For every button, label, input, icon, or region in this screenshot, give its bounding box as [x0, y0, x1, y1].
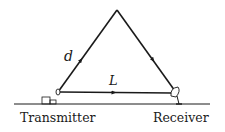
receiver-label: Receiver	[153, 110, 209, 125]
transmitter-building-icon	[42, 97, 56, 104]
reflected-path-label: d	[64, 48, 73, 64]
signal-path-diagram: d L Transmitter Receiver	[0, 0, 225, 132]
direct-path	[60, 92, 172, 93]
transmitter-label: Transmitter	[20, 110, 96, 125]
transmitter-antenna-icon	[56, 89, 60, 95]
reflected-path-down	[117, 10, 175, 91]
satellite-dish-icon	[171, 87, 182, 104]
direct-path-label: L	[108, 73, 118, 88]
